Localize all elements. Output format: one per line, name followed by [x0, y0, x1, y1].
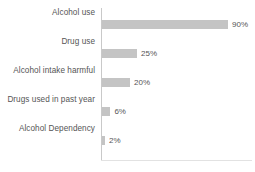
value-label-drug-use: 25% — [141, 49, 157, 58]
bar-row: Drug use 25% — [0, 37, 255, 66]
bar-group-alcohol-dependency: 2% — [102, 136, 121, 145]
bar-group-alcohol-intake-harmful: 20% — [102, 78, 150, 87]
bar-alcohol-dependency — [102, 136, 105, 145]
bar-group-drug-use: 25% — [102, 49, 157, 58]
value-label-alcohol-dependency: 2% — [109, 136, 121, 145]
bar-row: Alcohol Dependency 2% — [0, 124, 255, 153]
bar-row: Drugs used in past year 6% — [0, 95, 255, 124]
category-label-alcohol-use: Alcohol use — [0, 8, 95, 18]
bar-alcohol-use — [102, 20, 228, 29]
category-label-alcohol-intake-harmful: Alcohol intake harmful — [0, 66, 95, 76]
bar-alcohol-intake-harmful — [102, 78, 130, 87]
value-label-alcohol-use: 90% — [232, 20, 248, 29]
category-label-drug-use: Drug use — [0, 37, 95, 47]
bar-drugs-used-in-past-year — [102, 107, 110, 116]
category-label-alcohol-dependency: Alcohol Dependency — [0, 124, 95, 134]
bar-row: Alcohol use 90% — [0, 8, 255, 37]
horizontal-bar-chart: Alcohol use 90% Drug use 25% Alcohol int… — [0, 0, 255, 172]
bar-drug-use — [102, 49, 137, 58]
bar-group-drugs-used-in-past-year: 6% — [102, 107, 126, 116]
value-label-drugs-used-in-past-year: 6% — [114, 107, 126, 116]
category-label-drugs-used-in-past-year: Drugs used in past year — [0, 95, 95, 105]
bar-row: Alcohol intake harmful 20% — [0, 66, 255, 95]
x-axis-line — [101, 160, 252, 161]
value-label-alcohol-intake-harmful: 20% — [134, 78, 150, 87]
bar-group-alcohol-use: 90% — [102, 20, 248, 29]
